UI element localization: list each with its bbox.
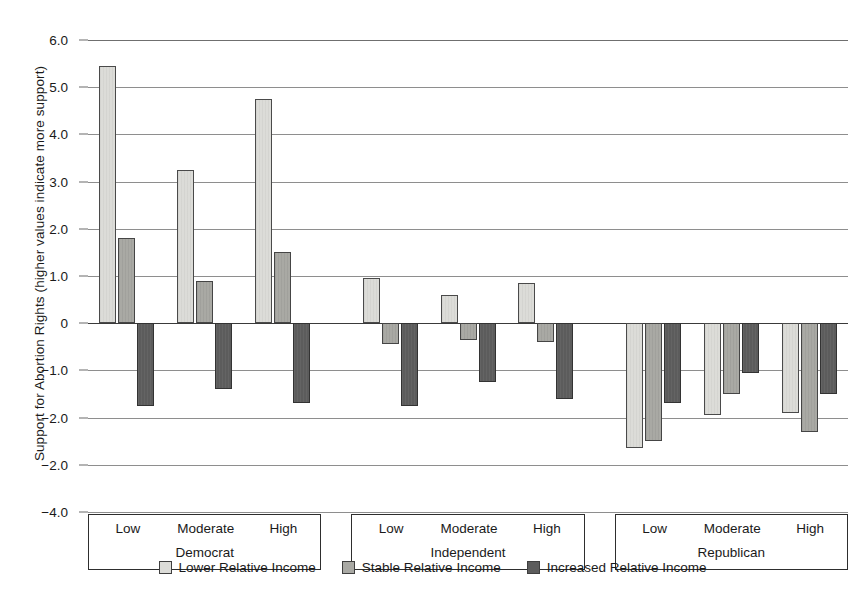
bar: [99, 66, 116, 323]
legend-item: Increased Relative Income: [527, 560, 707, 575]
bar: [401, 323, 418, 406]
bar: [704, 323, 721, 415]
bar: [177, 170, 194, 323]
legend-label: Increased Relative Income: [547, 560, 707, 575]
bar: [801, 323, 818, 432]
x-axis-group-label: Democrat: [175, 545, 234, 560]
legend-label: Lower Relative Income: [179, 560, 316, 575]
legend-label: Stable Relative Income: [362, 560, 501, 575]
bar: [274, 252, 291, 323]
bar: [664, 323, 681, 403]
y-tick-label: 3.0: [22, 174, 68, 189]
y-tick-label: 0: [22, 316, 68, 331]
bar: [196, 281, 213, 323]
legend-swatch-icon: [342, 561, 355, 574]
legend-swatch-icon: [527, 561, 540, 574]
gridline: [88, 512, 848, 513]
chart-legend: Lower Relative IncomeStable Relative Inc…: [0, 560, 865, 575]
x-axis-category-label: Moderate: [177, 521, 234, 536]
gridline: [88, 465, 848, 466]
gridline: [88, 229, 848, 230]
plot-area: 6.05.04.03.02.01.00−1.0−2.0−2.0−4.0: [88, 40, 848, 512]
bar: [363, 278, 380, 323]
bar: [293, 323, 310, 403]
legend-item: Stable Relative Income: [342, 560, 501, 575]
bar: [537, 323, 554, 342]
bar: [742, 323, 759, 373]
y-tick-label: −2.0: [22, 457, 68, 472]
y-tick-label: −1.0: [22, 363, 68, 378]
chart-container: Support for Abortion Rights (higher valu…: [0, 0, 865, 612]
bar: [215, 323, 232, 389]
bar: [556, 323, 573, 399]
x-axis-category-label: High: [796, 521, 824, 536]
x-axis-group-label: Republican: [698, 545, 766, 560]
bar: [382, 323, 399, 344]
bar: [723, 323, 740, 394]
bar: [626, 323, 643, 448]
gridline: [88, 182, 848, 183]
legend-item: Lower Relative Income: [159, 560, 316, 575]
y-tick-mark: [79, 323, 88, 324]
y-tick-label: −4.0: [22, 505, 68, 520]
legend-swatch-icon: [159, 561, 172, 574]
gridline: [88, 134, 848, 135]
y-tick-label: 6.0: [22, 33, 68, 48]
y-tick-mark: [79, 181, 88, 182]
x-axis-group-label: Independent: [430, 545, 505, 560]
gridline: [88, 87, 848, 88]
bar: [518, 283, 535, 323]
y-axis-title: Support for Abortion Rights (higher valu…: [32, 29, 47, 499]
y-tick-label: 1.0: [22, 269, 68, 284]
y-tick-mark: [79, 228, 88, 229]
y-tick-label: −2.0: [22, 410, 68, 425]
x-axis-category-label: Moderate: [440, 521, 497, 536]
bar: [441, 295, 458, 323]
x-axis-category-label: High: [270, 521, 298, 536]
y-tick-mark: [79, 40, 88, 41]
y-tick-mark: [79, 512, 88, 513]
bar: [255, 99, 272, 323]
gridline: [88, 418, 848, 419]
y-tick-label: 5.0: [22, 80, 68, 95]
y-tick-mark: [79, 134, 88, 135]
x-axis-category-label: Low: [642, 521, 667, 536]
bar: [118, 238, 135, 323]
bar: [782, 323, 799, 413]
y-tick-mark: [79, 464, 88, 465]
y-tick-label: 2.0: [22, 221, 68, 236]
bar: [820, 323, 837, 394]
gridline: [88, 276, 848, 277]
bar: [460, 323, 477, 340]
x-axis-category-label: Moderate: [704, 521, 761, 536]
y-tick-label: 4.0: [22, 127, 68, 142]
y-tick-mark: [79, 370, 88, 371]
x-axis-category-label: Low: [115, 521, 140, 536]
gridline: [88, 40, 848, 41]
y-tick-mark: [79, 276, 88, 277]
y-tick-mark: [79, 417, 88, 418]
bar: [645, 323, 662, 441]
x-axis-category-label: Low: [379, 521, 404, 536]
bar: [479, 323, 496, 382]
x-axis-category-label: High: [533, 521, 561, 536]
y-tick-mark: [79, 87, 88, 88]
bar: [137, 323, 154, 406]
